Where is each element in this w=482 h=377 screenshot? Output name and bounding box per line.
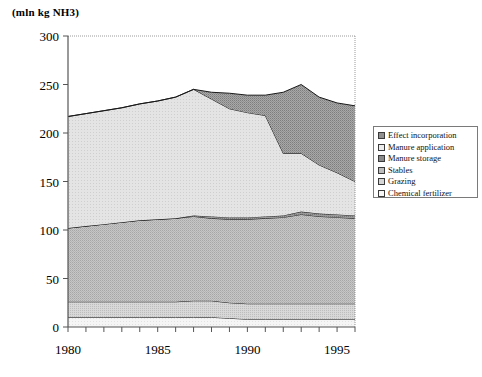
legend-label-stables: Stables: [388, 166, 413, 175]
y-tick-labels: 300250200150100500: [40, 29, 60, 335]
legend-swatch-stables: [378, 167, 385, 174]
y-tick-label: 250: [40, 78, 60, 93]
legend-item-effect-incorporation[interactable]: Effect incorporation: [378, 130, 473, 141]
y-tick-label: 50: [46, 272, 59, 287]
y-tick-label: 0: [53, 320, 60, 335]
y-tick-label: 150: [40, 175, 60, 190]
legend-item-grazing[interactable]: Grazing: [378, 176, 473, 187]
legend-swatch-grazing: [378, 178, 385, 185]
legend-item-chemical-fertilizer[interactable]: Chemical fertilizer: [378, 188, 473, 199]
chart-legend: Effect incorporation Manure application …: [373, 126, 478, 198]
legend-swatch-effect-incorporation: [378, 132, 385, 139]
legend-item-manure-application[interactable]: Manure application: [378, 142, 473, 153]
stacked-areas: [68, 85, 355, 328]
legend-item-stables[interactable]: Stables: [378, 165, 473, 176]
x-tick-label: 1990: [234, 342, 260, 357]
legend-swatch-manure-storage: [378, 155, 385, 162]
y-tick-label: 100: [40, 223, 60, 238]
x-tick-label: 1985: [145, 342, 171, 357]
legend-label-effect-incorporation: Effect incorporation: [388, 131, 457, 140]
y-tick-label: 300: [40, 29, 60, 44]
legend-label-grazing: Grazing: [388, 177, 415, 186]
legend-label-chemical-fertilizer: Chemical fertilizer: [388, 189, 452, 198]
legend-item-manure-storage[interactable]: Manure storage: [378, 153, 473, 164]
y-tick-label: 200: [40, 126, 60, 141]
y-axis-title: (mln kg NH3): [12, 6, 79, 18]
x-tick-label: 1995: [324, 342, 350, 357]
area-stables: [68, 214, 355, 303]
chart-container: (mln kg NH3): [0, 0, 482, 377]
legend-label-manure-storage: Manure storage: [388, 154, 441, 163]
legend-label-manure-application: Manure application: [388, 143, 454, 152]
x-tick-labels: 1980198519901995: [55, 342, 350, 357]
x-tick-label: 1980: [55, 342, 81, 357]
legend-swatch-manure-application: [378, 144, 385, 151]
legend-swatch-chemical-fertilizer: [378, 190, 385, 197]
